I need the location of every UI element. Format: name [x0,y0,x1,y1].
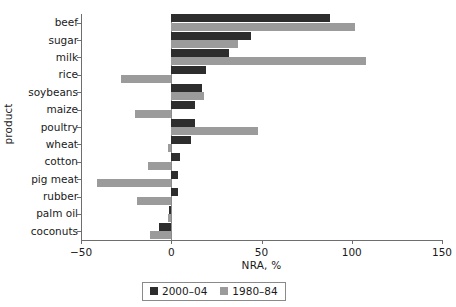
bar-pig-meat-recent [171,171,178,179]
x-axis-tick [262,240,263,244]
bar-sugar-earlier [171,40,238,48]
y-axis-tick [77,23,81,24]
y-axis-tick [77,162,81,163]
y-axis-category-label: milk [28,52,78,63]
y-axis-tick [77,144,81,145]
bar-rice-recent [171,66,205,74]
y-axis-category-label: wheat [28,139,78,150]
bar-maize-earlier [135,110,171,118]
y-axis-category-label: beef [28,17,78,28]
legend-swatch-icon [220,287,228,295]
y-axis-category-label: maize [28,104,78,115]
y-axis-tick [77,127,81,128]
y-axis-spine [81,14,82,240]
bar-poultry-recent [171,119,194,127]
bar-soybeans-recent [171,84,202,92]
bar-palm-oil-earlier [168,214,172,222]
plot-area: −50050100150 [81,14,442,240]
y-axis-tick [77,40,81,41]
bar-beef-earlier [171,23,355,31]
y-axis-category-label: coconuts [28,226,78,237]
x-axis-tick [171,240,172,244]
x-axis-tick-label: 50 [237,246,287,258]
y-axis-tick [77,75,81,76]
x-axis-tick [442,240,443,244]
bar-cotton-recent [171,153,180,161]
bar-soybeans-earlier [171,92,203,100]
bar-beef-recent [171,14,330,22]
y-axis-category-label: pig meat [28,174,78,185]
legend-label: 2000–04 [162,285,207,297]
bar-coconuts-earlier [150,231,172,239]
x-axis-tick-label: 100 [327,246,377,258]
x-axis-tick [81,240,82,244]
y-axis-category-label: palm oil [28,208,78,219]
y-axis-tick [77,110,81,111]
bar-cotton-earlier [148,162,171,170]
legend-label: 1980–84 [232,285,277,297]
legend-entry: 1980–84 [220,285,277,297]
y-axis-tick [77,214,81,215]
x-axis-tick-label: 0 [146,246,196,258]
bar-rubber-recent [171,188,178,196]
bar-poultry-earlier [171,127,258,135]
x-axis-tick-label: −50 [56,246,106,258]
bar-palm-oil-recent [169,206,171,214]
y-axis-category-label: soybeans [28,87,78,98]
bar-sugar-recent [171,32,250,40]
y-axis-tick [77,231,81,232]
x-axis-tick [352,240,353,244]
y-axis-category-label: cotton [28,156,78,167]
bar-pig-meat-earlier [97,179,171,187]
y-axis-tick [77,92,81,93]
y-axis-category-label: rubber [28,191,78,202]
y-axis-tick [77,197,81,198]
bar-coconuts-recent [159,223,172,231]
x-axis-title: NRA, % [81,259,442,271]
legend-entry: 2000–04 [150,285,207,297]
bar-rice-earlier [121,75,172,83]
y-axis-category-label: sugar [28,35,78,46]
bar-wheat-earlier [168,144,172,152]
bar-wheat-recent [171,136,191,144]
x-axis-tick-label: 150 [417,246,456,258]
bar-rubber-earlier [137,197,171,205]
y-axis-category-label: poultry [28,122,78,133]
bar-milk-recent [171,49,229,57]
bar-maize-recent [171,101,194,109]
legend-swatch-icon [150,287,158,295]
y-axis-tick-labels: beefsugarmilkricesoybeansmaizepoultrywhe… [28,14,78,240]
y-axis-tick [77,57,81,58]
y-axis-title: product [2,94,14,154]
chart-legend: 2000–041980–84 [142,282,286,301]
y-axis-category-label: rice [28,69,78,80]
bar-milk-earlier [171,57,366,65]
y-axis-tick [77,179,81,180]
